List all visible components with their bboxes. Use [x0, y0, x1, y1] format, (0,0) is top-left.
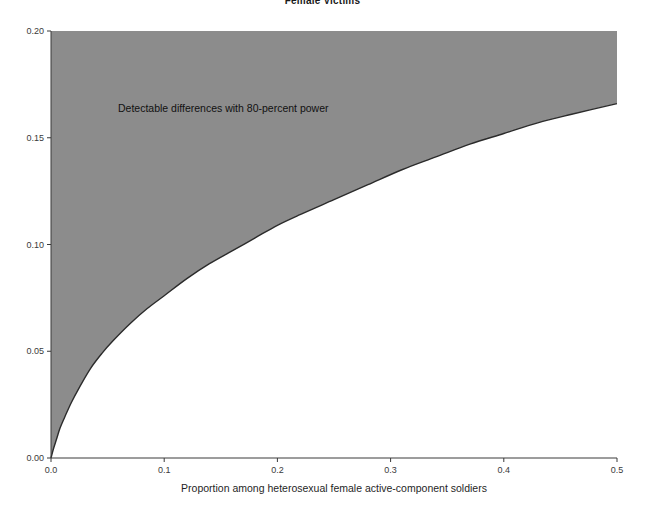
plot-area: 0.000.050.100.150.20 0.00.10.20.30.40.5 … — [0, 0, 645, 509]
x-tick-label: 0.0 — [45, 465, 58, 475]
x-tick-label: 0.2 — [271, 465, 284, 475]
y-tick-label: 0.10 — [6, 240, 44, 250]
y-tick-label: 0.20 — [6, 26, 44, 36]
y-tick-label: 0.05 — [6, 346, 44, 356]
plot-svg — [0, 0, 645, 509]
y-tick-label: 0.15 — [6, 133, 44, 143]
x-tick-label: 0.3 — [384, 465, 397, 475]
chart-figure: Female Victims 0.000.050.100.150.20 0.00… — [0, 0, 645, 509]
x-axis-label: Proportion among heterosexual female act… — [51, 482, 617, 494]
detectable-region-fill — [51, 31, 617, 458]
x-tick-label: 0.4 — [498, 465, 511, 475]
power-annotation-label: Detectable differences with 80-percent p… — [118, 102, 329, 114]
y-tick-label: 0.00 — [6, 453, 44, 463]
x-tick-label: 0.5 — [611, 465, 624, 475]
x-tick-label: 0.1 — [158, 465, 171, 475]
